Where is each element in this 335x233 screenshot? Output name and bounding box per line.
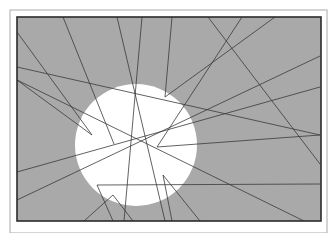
sun-circle-icon [75,84,197,206]
illustration-canvas [0,0,335,233]
